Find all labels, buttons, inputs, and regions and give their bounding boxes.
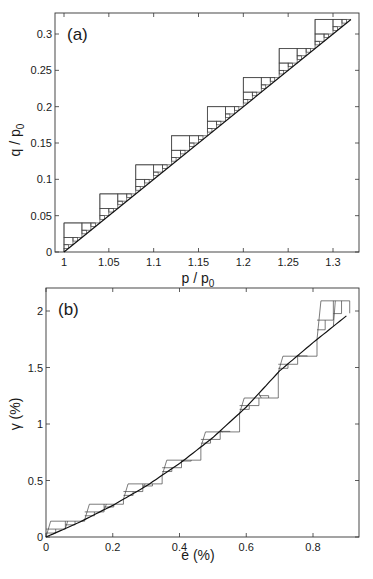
y-tick-label: 0.25 bbox=[31, 64, 52, 76]
x-tick-label: 1.2 bbox=[236, 256, 251, 268]
stair-square-large bbox=[243, 78, 261, 93]
stair-square-medium bbox=[190, 136, 199, 143]
stair-square-medium bbox=[315, 34, 324, 41]
y-tick-label: 0 bbox=[37, 531, 43, 543]
stair-square-medium bbox=[207, 121, 216, 128]
stair-square-medium bbox=[279, 63, 288, 70]
stair-square-medium bbox=[82, 223, 91, 230]
x-tick-label: 1.1 bbox=[146, 256, 161, 268]
stair-square-small bbox=[127, 194, 131, 198]
boundary-curve bbox=[46, 316, 346, 537]
stair-square-medium bbox=[172, 150, 181, 157]
x-tick-label: 1.3 bbox=[325, 256, 340, 268]
y-tick-label: 0.5 bbox=[28, 475, 43, 487]
x-tick-label: 1 bbox=[61, 256, 67, 268]
y-tick-label: 0 bbox=[46, 246, 52, 258]
stair-square-small bbox=[297, 56, 301, 60]
stair-square-small bbox=[261, 85, 265, 89]
stair-square-small bbox=[216, 121, 220, 125]
stair-square-small bbox=[145, 179, 149, 183]
x-tick-label: 1.25 bbox=[277, 256, 298, 268]
stair-square-small bbox=[315, 41, 319, 45]
y-tick-label: 0.3 bbox=[37, 28, 52, 40]
stair-square-large bbox=[100, 194, 118, 209]
x-tick-label: 1.15 bbox=[188, 256, 209, 268]
stair-square-small bbox=[64, 245, 68, 249]
stair-square-small bbox=[154, 172, 158, 176]
y-axis-label-subscript: 0 bbox=[15, 123, 26, 129]
y-tick-label: 0.2 bbox=[37, 101, 52, 113]
stair-square-small bbox=[279, 70, 283, 74]
stair-square-medium bbox=[136, 179, 145, 186]
stair-square-small bbox=[243, 99, 247, 103]
x-axis-label-subscript: 0 bbox=[209, 278, 215, 289]
x-axis-label: e (%) bbox=[181, 547, 214, 563]
panel-label: (b) bbox=[58, 300, 79, 319]
figure: 11.051.11.151.21.251.300.050.10.150.20.2… bbox=[0, 0, 373, 579]
stair-square-small bbox=[333, 27, 337, 31]
y-tick-label: 1.5 bbox=[28, 362, 43, 374]
stair-square-small bbox=[207, 128, 211, 132]
stair-square-small bbox=[225, 114, 229, 118]
x-axis-label: p / p0 bbox=[182, 270, 215, 289]
panel-b-chart: 00.20.40.60.800.511.52(b)e (%)γ (%) bbox=[7, 288, 359, 563]
stair-square-small bbox=[82, 230, 86, 234]
y-tick-label: 2 bbox=[37, 305, 43, 317]
y-tick-label: 0.15 bbox=[31, 137, 52, 149]
stair-square-large bbox=[172, 136, 190, 151]
stair-square-small bbox=[172, 158, 176, 162]
stair-square-medium bbox=[154, 165, 163, 172]
y-axis-label: γ (%) bbox=[7, 398, 23, 431]
y-axis-label: q / p0 bbox=[7, 123, 26, 156]
x-tick-label: 0 bbox=[43, 541, 49, 553]
stair-square-medium bbox=[64, 237, 73, 244]
stair-square-medium bbox=[333, 19, 342, 26]
stair-square-medium bbox=[100, 208, 109, 215]
stair-square-small bbox=[306, 49, 310, 53]
axes-frame bbox=[46, 288, 359, 537]
y-tick-label: 0.05 bbox=[31, 210, 52, 222]
x-tick-label: 1.05 bbox=[98, 256, 119, 268]
x-tick-label: 0.8 bbox=[305, 541, 320, 553]
stair-square-large bbox=[207, 107, 225, 122]
stair-square-small bbox=[252, 92, 256, 96]
stair-square-large bbox=[136, 165, 154, 180]
stair-square-large bbox=[64, 223, 82, 238]
x-tick-label: 0.2 bbox=[105, 541, 120, 553]
y-tick-label: 0.1 bbox=[37, 173, 52, 185]
stair-square-medium bbox=[297, 49, 306, 56]
boundary-line bbox=[64, 19, 351, 252]
stair-square-small bbox=[100, 216, 104, 220]
stair-square-small bbox=[288, 63, 292, 67]
stair-square-small bbox=[234, 107, 238, 111]
stair-square-medium bbox=[118, 194, 127, 201]
stair-square-small bbox=[73, 237, 77, 241]
panel-a-chart: 11.051.11.151.21.251.300.050.10.150.20.2… bbox=[7, 13, 359, 289]
y-tick-label: 1 bbox=[37, 418, 43, 430]
stair-square-medium bbox=[225, 107, 234, 114]
stair-square-small bbox=[324, 34, 328, 38]
stair-square-small bbox=[91, 223, 95, 227]
stair-square-large bbox=[279, 49, 297, 64]
stair-square-medium bbox=[243, 92, 252, 99]
stair-square-small bbox=[342, 19, 346, 23]
stair-square-small bbox=[136, 187, 140, 191]
x-tick-label: 0.6 bbox=[239, 541, 254, 553]
stair-square-small bbox=[190, 143, 194, 147]
stair-square-small bbox=[163, 165, 167, 169]
stair-square-small bbox=[270, 78, 274, 82]
stair-square-small bbox=[199, 136, 203, 140]
stair-square-medium bbox=[261, 78, 270, 85]
stair-square-small bbox=[118, 201, 122, 205]
stair-square-small bbox=[181, 150, 185, 154]
stair-square-small bbox=[109, 208, 113, 212]
stair-square-large bbox=[315, 19, 333, 34]
panel-label: (a) bbox=[67, 25, 88, 44]
